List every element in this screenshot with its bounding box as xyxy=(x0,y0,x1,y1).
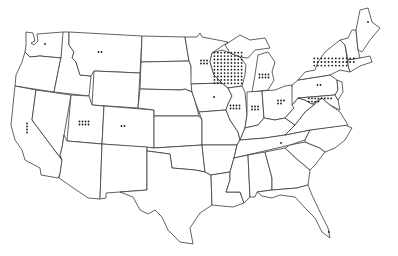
dot-NY xyxy=(321,65,323,67)
dot-UT xyxy=(79,124,81,126)
dot-NY xyxy=(346,65,348,67)
dot-WI xyxy=(217,76,219,78)
dot-NY xyxy=(349,61,351,63)
dot-WI xyxy=(217,79,219,81)
dot-WI xyxy=(234,55,236,57)
dot-MD xyxy=(318,101,320,103)
dot-WI xyxy=(237,62,239,64)
dot-NY xyxy=(331,65,333,67)
dot-WI xyxy=(241,59,243,61)
dot-UT xyxy=(79,121,81,123)
dot-MN xyxy=(200,60,202,62)
state-NY xyxy=(298,40,350,80)
dot-WI xyxy=(214,69,216,71)
dot-NY xyxy=(317,65,319,67)
dot-WI xyxy=(231,59,233,61)
dot-IL xyxy=(239,105,241,107)
dot-CA xyxy=(26,132,28,134)
dot-WI xyxy=(237,79,239,81)
dot-WI xyxy=(227,76,229,78)
dot-MN xyxy=(206,60,208,62)
state-KS xyxy=(154,116,202,148)
dot-UT xyxy=(82,124,84,126)
state-ND xyxy=(141,36,189,62)
dot-MN xyxy=(206,63,208,65)
dot-NY xyxy=(346,58,348,60)
state-FL xyxy=(257,185,330,238)
dot-MD xyxy=(321,98,323,100)
dot-WI xyxy=(231,76,233,78)
dot-IN xyxy=(254,109,256,111)
dot-IL xyxy=(233,105,235,107)
dot-NY xyxy=(335,61,337,63)
dot-PA xyxy=(317,84,319,86)
dot-WI xyxy=(214,52,216,54)
dot-WI xyxy=(234,52,236,54)
us-dot-density-map xyxy=(0,0,398,256)
dot-UT xyxy=(88,124,90,126)
dot-ME xyxy=(367,21,369,23)
dot-WI xyxy=(224,69,226,71)
dot-WI xyxy=(214,55,216,57)
dot-CA xyxy=(26,123,28,125)
dot-WI xyxy=(224,72,226,74)
dot-UT xyxy=(85,121,87,123)
dot-MD xyxy=(327,98,329,100)
dot-WI xyxy=(241,82,243,84)
dot-WI xyxy=(220,52,222,54)
dot-MI xyxy=(268,77,270,79)
dot-WI xyxy=(227,69,229,71)
dot-MI xyxy=(259,74,261,76)
dot-NY xyxy=(328,61,330,63)
dot-NY xyxy=(317,58,319,60)
dot-WI xyxy=(234,69,236,71)
dot-WI xyxy=(234,62,236,64)
dot-WI xyxy=(234,76,236,78)
dot-WI xyxy=(237,52,239,54)
state-WY xyxy=(92,71,140,108)
dot-IN xyxy=(251,106,253,108)
dot-MD xyxy=(311,98,313,100)
dot-WI xyxy=(220,79,222,81)
dot-MD xyxy=(311,101,313,103)
state-AZ xyxy=(59,135,102,199)
state-CO xyxy=(102,106,154,148)
dot-NY xyxy=(313,65,315,67)
dot-CO xyxy=(124,125,126,127)
dot-WI xyxy=(214,79,216,81)
dot-NY xyxy=(324,61,326,63)
dot-NY xyxy=(331,58,333,60)
dot-WI xyxy=(231,72,233,74)
dot-IL xyxy=(239,108,241,110)
dot-WI xyxy=(241,79,243,81)
dot-NY xyxy=(317,61,319,63)
dot-WI xyxy=(231,69,233,71)
dot-WI xyxy=(227,52,229,54)
dot-WI xyxy=(231,62,233,64)
dot-WI xyxy=(234,59,236,61)
dot-WI xyxy=(237,59,239,61)
dot-CA xyxy=(26,129,28,131)
dot-IL xyxy=(230,108,232,110)
dot-WI xyxy=(220,59,222,61)
dot-WI xyxy=(227,55,229,57)
dot-MI xyxy=(268,74,270,76)
dot-WI xyxy=(217,65,219,67)
dot-UT xyxy=(85,124,87,126)
dot-NY xyxy=(335,58,337,60)
dot-WI xyxy=(224,82,226,84)
dot-NY xyxy=(339,65,341,67)
dot-WI xyxy=(214,72,216,74)
dot-WI xyxy=(241,72,243,74)
dot-MI xyxy=(262,74,264,76)
dot-MI xyxy=(265,77,267,79)
dot-NY xyxy=(342,65,344,67)
dot-WI xyxy=(217,69,219,71)
dot-MN xyxy=(203,63,205,65)
dot-WI xyxy=(237,72,239,74)
dot-TN xyxy=(280,142,282,144)
state-SD xyxy=(140,61,192,92)
dot-OH xyxy=(280,103,282,105)
dot-NY xyxy=(339,58,341,60)
dot-WI xyxy=(220,55,222,57)
